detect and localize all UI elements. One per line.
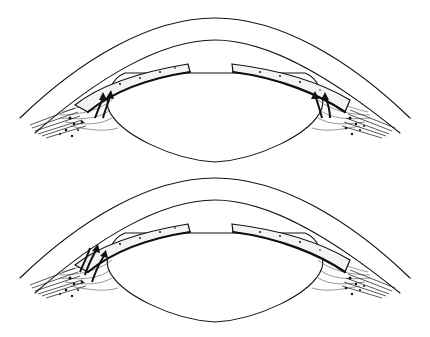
eye-anatomy-figure [0, 0, 430, 337]
top-panel [20, 18, 410, 162]
diagram-canvas [0, 0, 430, 337]
bottom-panel [20, 178, 410, 322]
